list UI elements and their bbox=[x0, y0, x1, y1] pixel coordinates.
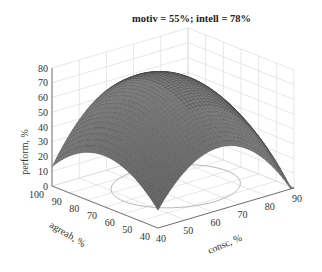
z-tick: 60 bbox=[38, 92, 48, 103]
x-tick: 90 bbox=[292, 193, 302, 204]
z-tick: 80 bbox=[38, 63, 48, 74]
x-axis-label: consc, % bbox=[206, 232, 244, 256]
y-tick: 90 bbox=[52, 196, 62, 207]
z-tick: 20 bbox=[38, 151, 48, 162]
y-tick: 50 bbox=[122, 224, 132, 235]
y-tick: 40 bbox=[140, 231, 150, 242]
y-axis-label: agreab, % bbox=[48, 219, 88, 249]
x-tick: 40 bbox=[156, 233, 166, 244]
surface-mesh bbox=[52, 71, 294, 210]
y-tick: 100 bbox=[29, 189, 44, 200]
x-tick: 80 bbox=[265, 201, 275, 212]
y-tick: 80 bbox=[69, 203, 79, 214]
z-tick: 70 bbox=[38, 77, 48, 88]
y-tick: 60 bbox=[105, 217, 115, 228]
z-tick: 30 bbox=[38, 136, 48, 147]
x-tick: 60 bbox=[210, 217, 220, 228]
x-tick: 50 bbox=[183, 225, 193, 236]
z-tick: 10 bbox=[38, 166, 48, 177]
z-tick: 50 bbox=[38, 107, 48, 118]
x-tick: 70 bbox=[238, 209, 248, 220]
z-axis-label: perform, % bbox=[19, 129, 30, 175]
surface-chart: 0102030405060708040506070809010040506070… bbox=[0, 0, 322, 272]
z-tick: 40 bbox=[38, 122, 48, 133]
y-tick: 70 bbox=[87, 210, 97, 221]
